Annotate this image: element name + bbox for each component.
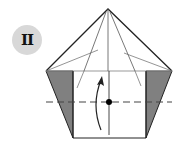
crease-line (46, 50, 98, 71)
origami-diagram (0, 0, 193, 146)
curved-fold-arrow (96, 80, 101, 130)
crease-line (84, 12, 106, 71)
crease-line (135, 71, 141, 86)
reference-dot (106, 99, 112, 105)
crease-line (77, 71, 84, 88)
roof-outline (46, 9, 172, 71)
crease-line (110, 12, 135, 71)
left-shaded-flap (46, 71, 73, 138)
right-shaded-flap (146, 71, 172, 138)
arrow-head-icon (97, 76, 104, 86)
